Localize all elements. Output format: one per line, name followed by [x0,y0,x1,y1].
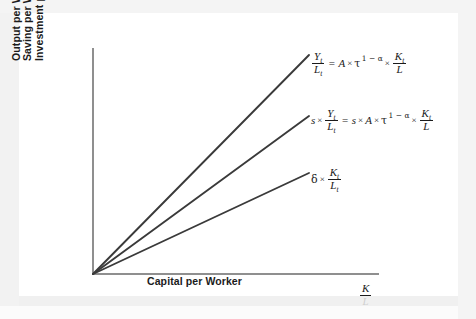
subscript-t: t [320,69,322,78]
fraction-numerator: Yt [312,51,324,64]
times-sign: × [384,58,390,68]
symbol-k: K [422,107,429,119]
y-axis-label-line-2: Saving per Worker [22,0,33,61]
equation-output-per-worker-math: Yt Lt = A × τ1 − α × Kt L [311,51,407,75]
equation-saving-per-worker-math: s × Yt Lt = s × A × τ1 − α × Kt L [311,108,434,132]
times-sign: × [347,58,353,68]
subscript-t: t [333,126,335,135]
x-axis-label: Capital per Worker [147,275,242,287]
fraction-numerator: K [360,283,371,296]
symbol-s: s [352,114,356,126]
y-axis-label: Output per Worker Saving per Worker Inve… [11,0,51,61]
equation-investment-per-worker: δ × Kt Lt [311,167,342,191]
symbol-k: K [330,166,337,178]
fraction-denominator: Lt [328,180,340,192]
scan-margin-bottom [19,296,458,306]
subscript-t: t [320,56,322,65]
equation-investment-per-worker-math: δ × Kt Lt [311,167,342,191]
line-investment-per-worker [93,173,309,274]
y-axis-label-line-3: Investment per Worker [34,0,45,61]
line-saving-per-worker [93,116,309,274]
equals-sign: = [327,57,337,69]
symbol-a: A [338,57,345,69]
equation-saving-per-worker: s × Yt Lt = s × A × τ1 − α × Kt L [311,108,434,132]
line-output-per-worker [93,55,309,274]
fraction-denominator: L [394,64,404,76]
figure-page: Output per Worker Saving per Worker Inve… [0,0,476,319]
y-axis-label-stack: Output per Worker Saving per Worker Inve… [11,0,45,61]
fraction-yt-over-lt: Yt Lt [312,51,324,75]
fraction-kt-over-l: Kt L [393,51,406,75]
subscript-t: t [333,113,335,122]
fraction-numerator: Kt [393,51,406,64]
fraction-denominator: Lt [312,64,324,76]
exponent-one-minus-alpha: 1 − α [362,54,383,63]
figure-panel: Output per Worker Saving per Worker Inve… [19,13,458,296]
times-sign: × [319,174,325,184]
exponent-one-minus-alpha: 1 − α [389,111,410,120]
fraction-numerator: Kt [328,167,341,180]
subscript-t: t [337,172,339,181]
times-sign: × [358,115,364,125]
symbol-a: A [365,114,372,126]
times-sign: × [411,115,417,125]
fraction-numerator: Yt [325,108,337,121]
symbol-s: s [311,114,315,126]
times-sign: × [373,115,379,125]
equation-output-per-worker: Yt Lt = A × τ1 − α × Kt L [311,46,407,75]
subscript-t: t [402,56,404,65]
symbol-tau: τ [354,57,360,70]
scan-margin-right [458,0,476,319]
subscript-t: t [336,185,338,194]
equals-sign: = [340,114,350,126]
fraction-numerator: Kt [420,108,433,121]
symbol-delta: δ [311,173,318,186]
symbol-tau: τ [381,114,387,127]
plot-area: Output per Worker Saving per Worker Inve… [19,13,458,296]
times-sign: × [317,115,323,125]
fraction-yt-over-lt: Yt Lt [325,108,337,132]
scan-margin-top [0,0,476,13]
subscript-t: t [429,113,431,122]
fraction-denominator: L [421,121,431,133]
fraction-kt-over-lt: Kt Lt [328,167,341,191]
fraction-kt-over-l: Kt L [420,108,433,132]
fraction-denominator: Lt [325,121,337,133]
